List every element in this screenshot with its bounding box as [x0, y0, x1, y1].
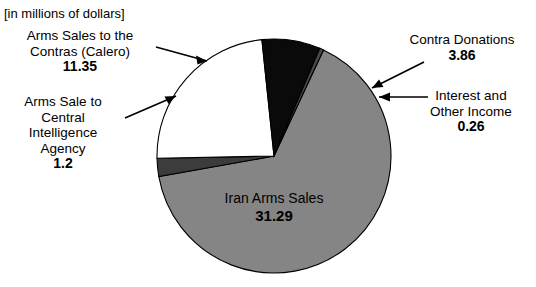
- units-caption: [in millions of dollars]: [4, 6, 125, 21]
- callout-interest-value: 0.26: [406, 119, 536, 135]
- callout-donations-value: 3.86: [388, 48, 536, 64]
- callout-contras-line2: Contras (Calero): [6, 44, 154, 60]
- callout-cia-value: 1.2: [2, 156, 124, 172]
- slice-label-iran-arms-sales: Iran Arms Sales 31.29: [176, 190, 372, 224]
- pie-slice-arms-sales-to-contras: [157, 40, 274, 159]
- callout-interest-line2: Other Income: [406, 104, 536, 120]
- iran-label-value: 31.29: [176, 207, 372, 224]
- callout-cia-line1: Arms Sale to: [2, 94, 124, 110]
- callout-contra-donations: Contra Donations 3.86: [388, 32, 536, 63]
- callout-cia-line3: Intelligence: [2, 125, 124, 141]
- leader-line-contra-donations: [372, 62, 424, 88]
- callout-arms-sales-to-contras: Arms Sales to the Contras (Calero) 11.35: [6, 28, 154, 75]
- callout-contras-value: 11.35: [6, 59, 154, 75]
- callout-interest-and-other-income: Interest and Other Income 0.26: [406, 88, 536, 135]
- callout-interest-line1: Interest and: [406, 88, 536, 104]
- callout-donations-line1: Contra Donations: [388, 32, 536, 48]
- pie-chart-figure: [in millions of dollars]: [0, 0, 536, 287]
- callout-cia-line2: Central: [2, 110, 124, 126]
- leader-line-contras: [156, 47, 207, 65]
- callout-contras-line1: Arms Sales to the: [6, 28, 154, 44]
- callout-cia-line4: Agency: [2, 141, 124, 157]
- callout-arms-sale-to-cia: Arms Sale to Central Intelligence Agency…: [2, 94, 124, 172]
- iran-label-text: Iran Arms Sales: [225, 190, 324, 206]
- arrow-left-icon: [379, 93, 390, 102]
